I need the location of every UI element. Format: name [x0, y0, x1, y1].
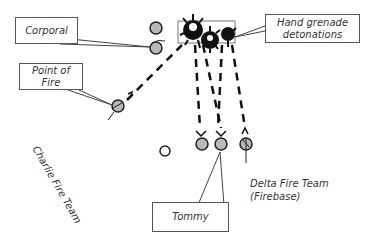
- arrow-icon: [196, 131, 206, 136]
- point-of-fire-callout: Point of Fire: [19, 63, 83, 90]
- empty-position-icon: [160, 146, 170, 156]
- grenade-pointer: [235, 26, 265, 37]
- tommy-callout: Tommy: [152, 202, 229, 232]
- grenade-callout: Hand grenade detonations: [265, 14, 360, 43]
- soldier-icon: [150, 22, 162, 34]
- tommy-pointer: [198, 152, 224, 205]
- point-of-fire-label-1: Point of: [32, 65, 70, 77]
- tactical-diagram: Corporal Point of Fire Hand grenade deto…: [0, 0, 374, 242]
- delta-fire-line-1: [195, 45, 200, 128]
- point-of-fire-soldier-icon: [112, 100, 124, 112]
- delta-team-label: Delta Fire Team (Firebase): [250, 177, 329, 203]
- grenade-label-1: Hand grenade: [277, 17, 348, 29]
- delta-team-label-2: (Firebase): [250, 190, 329, 203]
- point-of-fire-label-2: Fire: [42, 77, 61, 89]
- delta-team-label-1: Delta Fire Team: [250, 177, 329, 190]
- arrow-icon: [216, 131, 226, 136]
- explosion-icon: [221, 27, 235, 41]
- corporal-soldier-icon: [150, 42, 162, 54]
- tommy-label: Tommy: [172, 211, 208, 223]
- tommy-soldier-icon: [215, 138, 227, 150]
- delta-fire-line-4: [232, 45, 245, 128]
- corporal-callout: Corporal: [15, 17, 78, 44]
- arrow-icon: [242, 128, 248, 134]
- delta-soldier-icon: [196, 138, 208, 150]
- grenade-label-2: detonations: [283, 29, 342, 41]
- delta-fire-line-3: [218, 45, 222, 128]
- corporal-label: Corporal: [25, 25, 68, 37]
- grenade-explosions: [180, 14, 236, 53]
